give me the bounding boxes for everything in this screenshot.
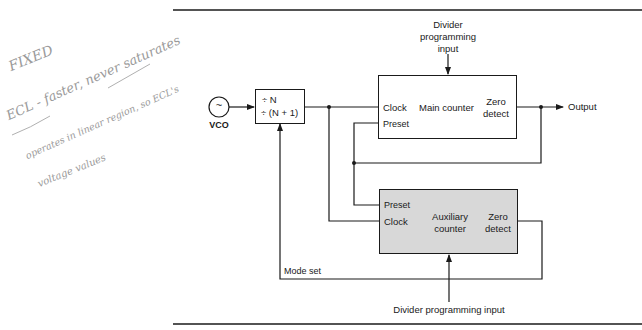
main-counter-clock-label: Clock — [383, 102, 407, 113]
junction-dot-output — [539, 105, 543, 109]
handwritten-underline-ecl — [12, 116, 50, 135]
main-counter-preset-label: Preset — [383, 119, 409, 130]
main-counter-zero-label: Zero — [486, 96, 506, 107]
main-counter-detect-label: detect — [483, 108, 509, 119]
aux-counter-zero-label: Zero — [488, 211, 508, 222]
vco-label: VCO — [209, 120, 229, 131]
prescaler-box: ÷ N ÷ (N + 1) — [255, 89, 305, 124]
junction-dot-preset — [352, 161, 356, 165]
output-label: Output — [568, 101, 597, 112]
main-counter-title: Main counter — [419, 102, 474, 113]
bottom-input-label: Divider programming input — [393, 304, 504, 315]
diagram-wiring — [0, 0, 642, 330]
auxiliary-counter-box: Preset Clock Auxiliary counter Zero dete… — [379, 189, 518, 254]
top-input-label-2: programming — [420, 31, 476, 42]
aux-counter-preset-label: Preset — [384, 200, 410, 211]
prescaler-divide-n-plus-1: ÷ (N + 1) — [261, 107, 298, 118]
vco-symbol: ~ — [216, 100, 222, 111]
aux-counter-detect-label: detect — [485, 223, 511, 234]
mode-set-label: Mode set — [284, 266, 321, 277]
handwritten-underline-saturates — [108, 64, 150, 88]
main-counter-box: Clock Preset Main counter Zero detect — [378, 75, 517, 139]
aux-counter-title-1: Auxiliary — [432, 211, 468, 222]
top-input-label-3: input — [438, 43, 459, 54]
aux-counter-title-2: counter — [434, 223, 466, 234]
prescaler-divide-n: ÷ N — [262, 94, 277, 105]
aux-counter-clock-label: Clock — [384, 216, 408, 227]
junction-dot-clock — [327, 105, 331, 109]
top-input-label-1: Divider — [433, 19, 463, 30]
